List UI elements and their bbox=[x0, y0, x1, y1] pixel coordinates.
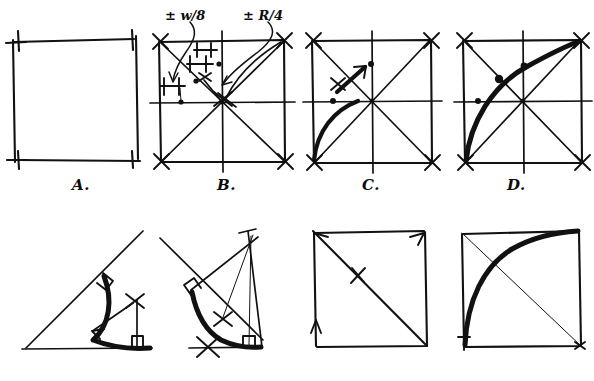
panel-g-group bbox=[311, 231, 427, 347]
panel-b-dot-left-mid bbox=[178, 99, 183, 104]
panel-c-dot-top bbox=[368, 61, 374, 67]
panel-h-bold-arc bbox=[465, 231, 578, 345]
panel-f-construction-a bbox=[222, 235, 253, 320]
annotation-w-over-8: ± w/8 bbox=[165, 8, 205, 23]
panel-b-dim-drop-left bbox=[180, 88, 181, 101]
panel-b-pointer-to-center bbox=[204, 80, 222, 102]
panel-d-dot-on-vertical bbox=[521, 63, 528, 70]
panel-f-tangent-arc bbox=[192, 292, 261, 347]
panel-d-center-dot bbox=[521, 99, 526, 104]
panel-a-group bbox=[6, 30, 140, 169]
panel-e-group bbox=[22, 231, 152, 349]
panel-b-cross-mark-diag bbox=[199, 73, 211, 81]
panel-c-center-dot bbox=[370, 99, 375, 104]
panel-h-corner-mark-bl bbox=[458, 337, 470, 350]
panel-b-center-dot bbox=[220, 100, 225, 105]
panel-label-b: B. bbox=[217, 176, 236, 194]
panel-a-corner-overshoot-tl bbox=[18, 31, 19, 51]
panel-label-c: C. bbox=[362, 176, 380, 194]
panel-c-dot-left-mid bbox=[330, 98, 336, 104]
panel-b-dot-diag bbox=[193, 78, 198, 83]
annotation-r-over-4: ± R/4 bbox=[243, 8, 283, 23]
panel-d-group bbox=[454, 31, 592, 173]
panel-a-edge-overshoot-left bbox=[6, 42, 26, 43]
diagram-sheet: ± w/8 ± R/4 A. B. C. D. bbox=[0, 0, 594, 381]
panel-f-group bbox=[160, 229, 263, 357]
panel-e-radius-arrow-shaft bbox=[94, 303, 133, 330]
panel-a-corner-overshoot-tr bbox=[132, 30, 133, 50]
panel-d-dot-left-mid bbox=[475, 98, 481, 104]
panel-e-leg-upper bbox=[26, 231, 143, 348]
panel-g-corner-arrow-tr bbox=[410, 233, 424, 245]
panel-label-d: D. bbox=[507, 176, 526, 194]
panel-a-square bbox=[13, 36, 140, 162]
panel-f-center-cross-upper bbox=[214, 312, 232, 326]
panel-c-group bbox=[303, 31, 442, 173]
panel-label-a: A. bbox=[72, 176, 90, 194]
panel-a-corner-overshoot-br bbox=[132, 151, 133, 168]
panel-g-diagonal-tick bbox=[351, 268, 365, 283]
panel-d-dot-on-diagonal bbox=[495, 75, 503, 83]
panel-h-group bbox=[458, 231, 585, 350]
panel-b-leader-r4-arrow bbox=[222, 76, 232, 85]
panel-c-swept-arc bbox=[314, 101, 358, 160]
panel-f-apex-line bbox=[191, 237, 258, 290]
panel-f-leg-upper bbox=[160, 238, 263, 340]
panel-b-dot-top bbox=[216, 61, 221, 66]
panel-g-diagonal bbox=[313, 231, 427, 346]
panel-b-group bbox=[150, 22, 295, 172]
